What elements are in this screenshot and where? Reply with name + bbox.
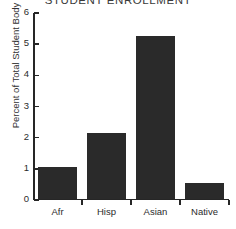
y-tick-label: 2 [24,131,29,143]
chart-title: STUDENT ENROLLMENT [0,0,236,7]
x-tick-mark [130,200,132,205]
y-tick-label: 4 [24,68,29,80]
x-tick-label: Asian [131,206,180,217]
y-tick-mark [34,199,39,201]
y-tick-mark [34,137,39,139]
y-tick-label: 0 [24,193,29,205]
bar[interactable] [38,167,77,198]
x-tick-label: Afr [33,206,82,217]
plot-area: 0123456 [33,13,229,200]
y-tick-mark [34,75,39,77]
y-tick-label: 3 [24,100,29,112]
y-tick-label: 1 [24,162,29,174]
x-tick-label: Native [180,206,229,217]
y-tick-label: 5 [24,37,29,49]
bar[interactable] [136,36,175,198]
x-tick-mark [228,200,230,205]
x-tick-mark [81,200,83,205]
x-tick-mark [179,200,181,205]
bar[interactable] [185,183,224,199]
y-axis-title: Percent of Total Student Body [10,0,21,141]
y-tick-mark [34,12,39,14]
y-tick-mark [34,106,39,108]
y-tick-label: 6 [24,6,29,18]
y-tick-mark [34,43,39,45]
bar[interactable] [87,133,126,198]
x-tick-label: Hisp [82,206,131,217]
bar-chart-figure: STUDENT ENROLLMENT Percent of Total Stud… [0,0,236,229]
